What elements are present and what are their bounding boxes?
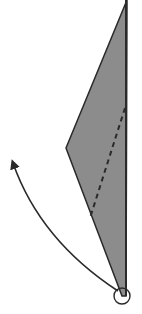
gray-quadrilateral-shape: [66, 0, 127, 296]
rotation-diagram: [0, 0, 142, 314]
